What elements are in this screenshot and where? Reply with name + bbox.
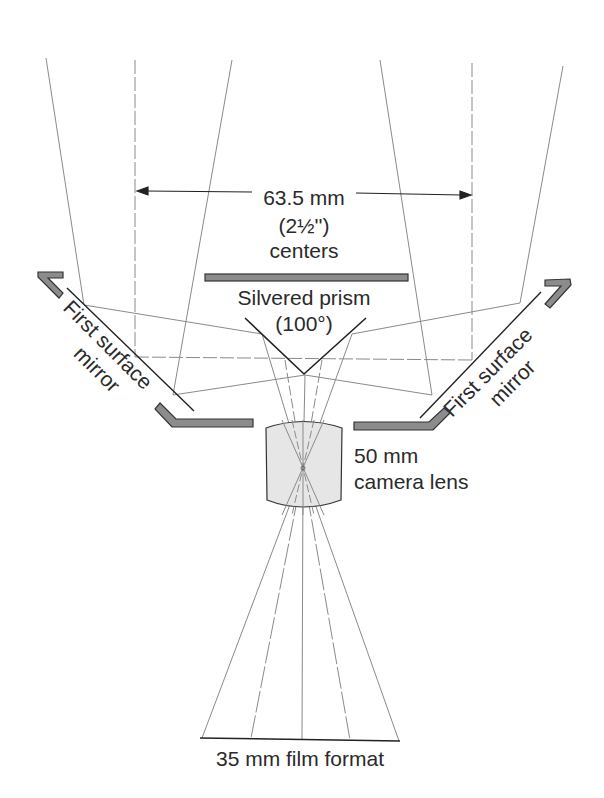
- prism-angle-label: (100°): [275, 312, 332, 335]
- film-plane: [200, 738, 400, 741]
- left-mirror-label: First surface mirror: [41, 296, 157, 412]
- lens-to-film-rays: [202, 470, 399, 741]
- lens-name-label: camera lens: [354, 470, 468, 493]
- spacing-inches-label: (2½''): [278, 214, 329, 237]
- spacing-note-label: centers: [270, 239, 339, 262]
- stereo-optics-diagram: 63.5 mm (2½'') centers Silvered prism (1…: [0, 0, 604, 798]
- left-mirror-bottom-bracket: [155, 403, 253, 427]
- prism-name-label: Silvered prism: [237, 286, 370, 309]
- left-mirror-top-bracket: [38, 272, 63, 298]
- right-mirror-top-bracket: [545, 279, 571, 308]
- spacing-value-label: 63.5 mm: [263, 186, 345, 209]
- right-mirror-bottom-bracket: [354, 408, 450, 430]
- top-plate: [205, 274, 408, 281]
- lens-focal-label: 50 mm: [354, 444, 418, 467]
- film-format-label: 35 mm film format: [216, 747, 384, 770]
